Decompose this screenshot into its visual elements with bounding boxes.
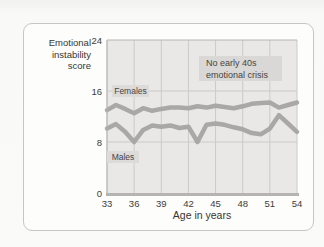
series-label-females: Females xyxy=(112,85,149,97)
x-tick-label: 39 xyxy=(156,198,167,209)
x-tick-label: 48 xyxy=(237,198,248,209)
series-label-males: Males xyxy=(107,151,139,163)
y-tick-label: 24 xyxy=(91,35,102,46)
x-tick-label: 51 xyxy=(265,198,276,209)
y-tick-label: 8 xyxy=(97,137,102,148)
x-tick-label: 36 xyxy=(129,198,140,209)
annotation-box: No early 40s emotional crisis xyxy=(199,56,282,81)
x-tick-label: 42 xyxy=(183,198,194,209)
y-tick-label: 0 xyxy=(97,188,102,199)
x-axis-title: Age in years xyxy=(107,209,297,221)
x-tick-label: 33 xyxy=(102,198,113,209)
x-tick-label: 45 xyxy=(210,198,221,209)
y-tick-label: 16 xyxy=(91,86,102,97)
x-tick-label: 54 xyxy=(292,198,303,209)
